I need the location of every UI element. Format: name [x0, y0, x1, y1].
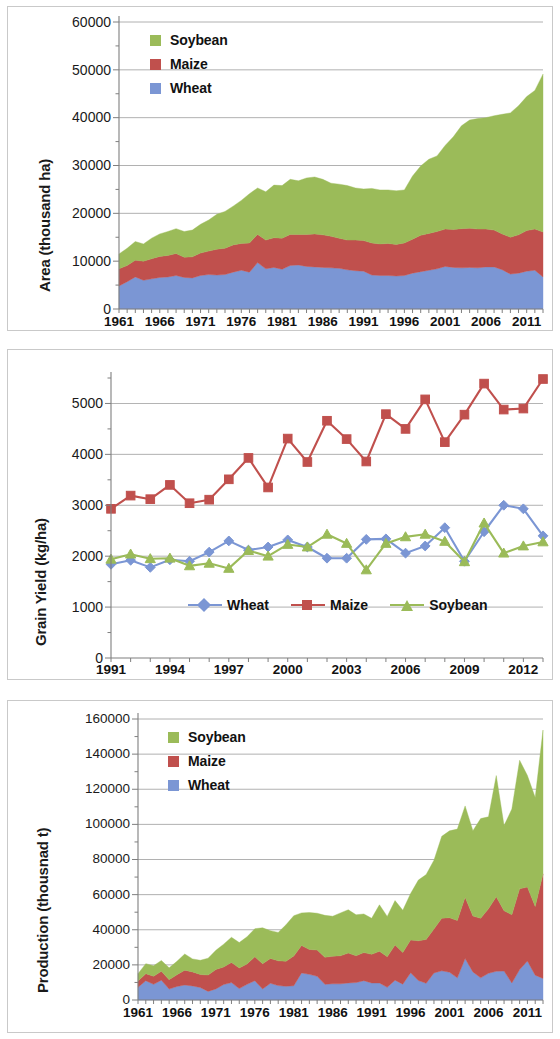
- legend-label: Wheat: [227, 597, 269, 613]
- yield-plot-region: [8, 350, 554, 680]
- yield-marker-maize: [342, 435, 351, 444]
- yield-marker-maize: [421, 395, 430, 404]
- yield-marker-maize: [460, 410, 469, 419]
- legend-item-maize[interactable]: Maize: [291, 597, 368, 613]
- yield-marker-maize: [185, 499, 194, 508]
- yield-marker-soybean: [479, 518, 489, 527]
- legend-label: Wheat: [170, 80, 212, 96]
- legend-label: Soybean: [429, 597, 487, 613]
- yield-marker-maize: [126, 491, 135, 500]
- yield-marker-soybean: [204, 558, 214, 567]
- yield-marker-maize: [441, 438, 450, 447]
- legend-item-maize[interactable]: Maize: [150, 56, 228, 72]
- grain-yield-chart-panel: Grain Yield (kg/ha) 01000200030004000500…: [7, 349, 553, 680]
- yield-marker-soybean: [322, 529, 332, 538]
- yield-marker-soybean: [538, 537, 548, 546]
- figure-page: Area (thousand ha) 010000200003000040000…: [0, 0, 560, 1039]
- legend-label: Maize: [170, 56, 208, 72]
- legend-marker-icon: [390, 598, 424, 612]
- production-chart: Production (thousnad t) 0200004000060000…: [8, 701, 552, 1032]
- legend-item-wheat[interactable]: Wheat: [150, 80, 228, 96]
- legend-label: Maize: [188, 753, 226, 769]
- production-plot-region: [8, 701, 554, 1031]
- yield-marker-maize: [166, 481, 175, 490]
- yield-marker-maize: [283, 434, 292, 443]
- yield-marker-maize: [519, 404, 528, 413]
- yield-marker-maize: [205, 495, 214, 504]
- legend-label: Soybean: [170, 32, 228, 48]
- area-legend: SoybeanMaizeWheat: [150, 32, 228, 104]
- yield-marker-maize: [244, 454, 253, 463]
- legend-item-wheat[interactable]: Wheat: [188, 597, 269, 613]
- yield-marker-maize: [323, 416, 332, 425]
- yield-marker-wheat: [145, 562, 155, 572]
- yield-marker-soybean: [420, 529, 430, 538]
- yield-marker-maize: [362, 457, 371, 466]
- legend-label: Maize: [330, 597, 368, 613]
- yield-marker-soybean: [126, 549, 136, 558]
- production-chart-panel: Production (thousnad t) 0200004000060000…: [7, 700, 553, 1033]
- yield-marker-maize: [225, 475, 234, 484]
- production-legend: SoybeanMaizeWheat: [168, 729, 246, 801]
- yield-marker-maize: [401, 425, 410, 434]
- legend-swatch-icon: [168, 756, 179, 767]
- yield-marker-wheat: [224, 536, 234, 546]
- legend-item-wheat[interactable]: Wheat: [168, 777, 246, 793]
- legend-label: Wheat: [188, 777, 230, 793]
- legend-marker-icon: [291, 598, 325, 612]
- legend-swatch-icon: [150, 59, 161, 70]
- yield-marker-maize: [480, 379, 489, 388]
- legend-item-soybean[interactable]: Soybean: [150, 32, 228, 48]
- yield-marker-maize: [264, 483, 273, 492]
- area-chart-panel: Area (thousand ha) 010000200003000040000…: [7, 6, 553, 331]
- yield-legend: WheatMaizeSoybean: [188, 597, 487, 613]
- yield-line-maize: [111, 379, 543, 509]
- area-plot-region: [8, 7, 554, 337]
- legend-swatch-icon: [150, 83, 161, 94]
- yield-marker-maize: [303, 458, 312, 467]
- grain-yield-chart: Grain Yield (kg/ha) 01000200030004000500…: [8, 350, 552, 679]
- yield-marker-maize: [382, 410, 391, 419]
- legend-swatch-icon: [150, 35, 161, 46]
- legend-item-soybean[interactable]: Soybean: [390, 597, 487, 613]
- legend-marker-icon: [188, 598, 222, 612]
- legend-label: Soybean: [188, 729, 246, 745]
- yield-marker-wheat: [204, 547, 214, 557]
- yield-marker-maize: [539, 375, 548, 384]
- legend-item-soybean[interactable]: Soybean: [168, 729, 246, 745]
- legend-swatch-icon: [168, 780, 179, 791]
- yield-marker-wheat: [322, 553, 332, 563]
- area-chart: Area (thousand ha) 010000200003000040000…: [8, 7, 552, 330]
- legend-swatch-icon: [168, 732, 179, 743]
- legend-item-maize[interactable]: Maize: [168, 753, 246, 769]
- yield-marker-maize: [499, 405, 508, 414]
- yield-marker-maize: [146, 495, 155, 504]
